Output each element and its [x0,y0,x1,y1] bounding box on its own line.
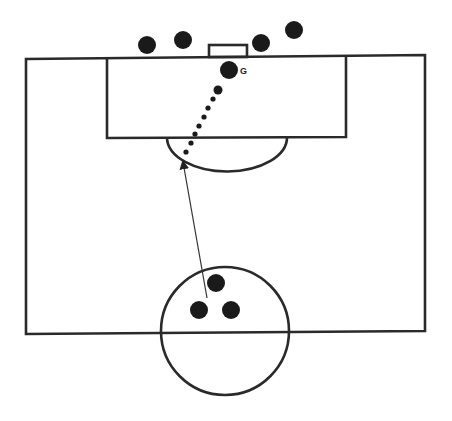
player-marker [285,21,303,39]
outer-boundary [26,55,425,334]
attacking-players [138,21,303,54]
player-marker [252,34,270,52]
goalkeeper [220,61,238,79]
player-marker [174,31,192,49]
run-arrow [183,162,207,298]
field-markings [26,45,425,395]
player-marker [207,274,225,292]
goal [209,45,247,57]
ball-path-dot [188,140,193,145]
ball-path-dot [205,105,210,110]
player-marker [190,301,208,319]
ball-path-dot [192,131,197,136]
goalkeeper-label: G [240,66,247,76]
center-players [190,274,240,319]
ball-path-dot [210,96,215,101]
soccer-drill-diagram: G [0,0,452,421]
ball-path-dot [183,149,188,154]
player-marker [222,301,240,319]
ball-path-dots [183,86,222,155]
ball-path-dot [214,86,223,95]
ball-path-dot [196,123,201,128]
ball-path-dot [201,114,206,119]
player-marker [138,36,156,54]
